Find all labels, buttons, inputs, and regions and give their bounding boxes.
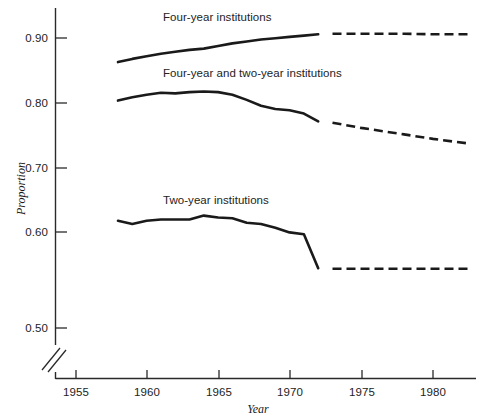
x-tick-label-1960: 1960 bbox=[134, 386, 160, 398]
series-label-two-year: Two-year institutions bbox=[163, 194, 269, 206]
axis-break-icon bbox=[42, 348, 66, 372]
series-line-four-year-dashed bbox=[333, 34, 469, 35]
series-label-four-year: Four-year institutions bbox=[163, 11, 271, 23]
y-axis-title: Proportion bbox=[14, 162, 29, 215]
chart-plot-area bbox=[0, 0, 482, 418]
x-axis-ticks bbox=[76, 370, 433, 379]
series-line-combined-dashed bbox=[333, 123, 469, 144]
x-tick-label-1980: 1980 bbox=[420, 386, 446, 398]
series-line-four-year-solid bbox=[118, 34, 318, 62]
y-tick-label-050: 0.50 bbox=[8, 322, 48, 334]
series-line-two-year-solid bbox=[118, 216, 318, 269]
y-tick-label-080: 0.80 bbox=[8, 97, 48, 109]
series-line-combined-solid bbox=[118, 92, 318, 122]
x-tick-label-1975: 1975 bbox=[349, 386, 375, 398]
x-tick-label-1970: 1970 bbox=[277, 386, 303, 398]
y-tick-label-060: 0.60 bbox=[8, 226, 48, 238]
chart-container: 0.90 0.80 0.70 0.60 0.50 1955 1960 1965 … bbox=[0, 0, 482, 418]
y-tick-label-090: 0.90 bbox=[8, 32, 48, 44]
y-axis-ticks bbox=[56, 38, 68, 328]
x-tick-label-1955: 1955 bbox=[63, 386, 89, 398]
x-axis-title: Year bbox=[247, 402, 269, 417]
x-tick-label-1965: 1965 bbox=[206, 386, 232, 398]
series-label-combined: Four-year and two-year institutions bbox=[163, 67, 342, 79]
